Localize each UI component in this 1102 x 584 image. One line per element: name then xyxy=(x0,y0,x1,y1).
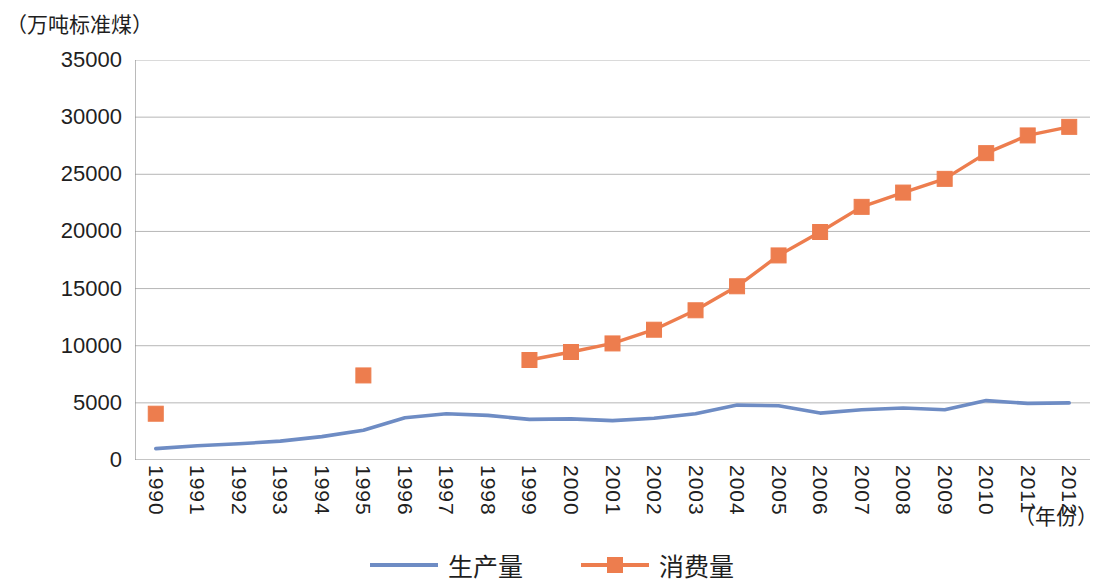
series-line-2 xyxy=(530,127,1070,360)
series-line-1 xyxy=(156,401,1069,449)
x-tick-label: 2001 xyxy=(601,465,625,516)
y-axis-tick-labels: 05000100001500020000250003000035000 xyxy=(0,60,122,460)
y-tick-label: 20000 xyxy=(61,218,122,244)
data-point-marker xyxy=(937,171,952,186)
y-axis-unit-label: （万吨标准煤） xyxy=(6,8,153,38)
y-tick-label: 30000 xyxy=(61,104,122,130)
x-tick-label: 2004 xyxy=(725,465,749,516)
data-point-marker xyxy=(522,353,537,368)
legend-label: 消费量 xyxy=(659,547,734,583)
legend-label: 生产量 xyxy=(448,547,523,583)
y-tick-label: 25000 xyxy=(61,161,122,187)
chart-legend: 生产量消费量 xyxy=(0,545,1102,584)
x-tick-label: 1990 xyxy=(144,465,168,516)
legend-marker-line-icon xyxy=(368,554,440,576)
x-tick-label: 1995 xyxy=(351,465,375,516)
data-point-marker xyxy=(1062,119,1077,134)
y-tick-label: 0 xyxy=(110,447,122,473)
x-tick-label: 2008 xyxy=(891,465,915,516)
chart-container: （万吨标准煤） 05000100001500020000250003000035… xyxy=(0,0,1102,584)
data-point-marker xyxy=(854,199,869,214)
x-tick-label: 1999 xyxy=(517,465,541,516)
x-tick-label: 2007 xyxy=(850,465,874,516)
x-tick-label: 1996 xyxy=(393,465,417,516)
x-tick-label: 1993 xyxy=(268,465,292,516)
data-point-marker xyxy=(771,248,786,263)
x-tick-label: 2010 xyxy=(974,465,998,516)
data-point-marker xyxy=(1020,128,1035,143)
x-tick-label: 2002 xyxy=(642,465,666,516)
data-point-marker xyxy=(896,185,911,200)
legend-item-2[interactable]: 消费量 xyxy=(579,547,734,583)
data-point-marker xyxy=(647,322,662,337)
plot-svg xyxy=(135,60,1090,460)
data-point-marker xyxy=(148,406,163,421)
data-point-marker xyxy=(688,303,703,318)
x-tick-label: 1994 xyxy=(310,465,334,516)
x-tick-label: 1992 xyxy=(227,465,251,516)
x-tick-label: 2005 xyxy=(767,465,791,516)
data-point-marker xyxy=(356,368,371,383)
x-tick-label: 2000 xyxy=(559,465,583,516)
data-point-marker xyxy=(979,146,994,161)
x-tick-label: 1998 xyxy=(476,465,500,516)
x-tick-label: 1997 xyxy=(434,465,458,516)
data-point-marker xyxy=(813,225,828,240)
legend-marker-square-icon xyxy=(579,554,651,576)
x-tick-label: 2006 xyxy=(808,465,832,516)
x-axis-unit-label: （年份） xyxy=(1014,500,1098,530)
x-tick-label: 1991 xyxy=(185,465,209,516)
legend-item-1[interactable]: 生产量 xyxy=(368,547,523,583)
plot-area xyxy=(135,60,1090,460)
y-tick-label: 10000 xyxy=(61,333,122,359)
y-tick-label: 15000 xyxy=(61,276,122,302)
y-tick-label: 5000 xyxy=(73,390,122,416)
data-point-marker xyxy=(730,279,745,294)
x-tick-label: 2009 xyxy=(933,465,957,516)
data-point-marker xyxy=(563,345,578,360)
y-tick-label: 35000 xyxy=(61,47,122,73)
data-point-marker xyxy=(605,336,620,351)
x-tick-label: 2003 xyxy=(684,465,708,516)
